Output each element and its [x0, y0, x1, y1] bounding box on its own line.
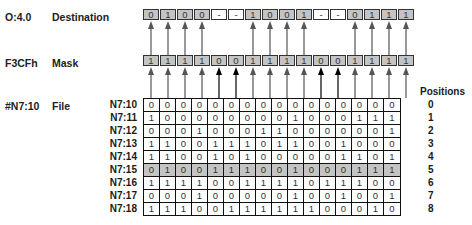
table-cell: 0 [176, 190, 192, 202]
table-cell: 0 [256, 151, 272, 163]
table-cell: 0 [320, 203, 336, 215]
table-cell: 0 [336, 203, 352, 215]
table-cell: 0 [352, 125, 368, 137]
table-cell: 0 [304, 125, 320, 137]
table-row: 1100111011001000 [144, 138, 400, 151]
table-cell: 1 [368, 164, 384, 176]
table-cell: 0 [224, 99, 240, 111]
table-row: 1100101000001101 [144, 151, 400, 164]
table-cell: 0 [192, 99, 208, 111]
table-cell: 1 [384, 151, 400, 163]
table-cell: 0 [384, 177, 400, 189]
row-position-label: 8 [428, 203, 434, 214]
table-cell: 0 [272, 151, 288, 163]
table-row: 0100111001000111 [144, 164, 400, 177]
table-cell: 0 [240, 99, 256, 111]
table-row: 0001000001001001 [144, 190, 400, 203]
table-cell: 1 [352, 151, 368, 163]
table-cell: 1 [256, 203, 272, 215]
table-cell: 1 [272, 138, 288, 150]
table-cell: 0 [304, 99, 320, 111]
table-cell: 0 [224, 190, 240, 202]
table-cell: 1 [176, 203, 192, 215]
table-cell: 0 [176, 125, 192, 137]
table-cell: 1 [352, 112, 368, 124]
table-cell: 1 [160, 164, 176, 176]
table-row: 0000000000000000 [144, 99, 400, 112]
table-cell: 0 [368, 151, 384, 163]
table-cell: 0 [352, 190, 368, 202]
table-cell: 0 [144, 164, 160, 176]
table-cell: 0 [224, 125, 240, 137]
table-cell: 1 [240, 203, 256, 215]
table-cell: 0 [304, 112, 320, 124]
table-cell: 1 [144, 151, 160, 163]
table-cell: 1 [368, 112, 384, 124]
table-row: 1000000001000111 [144, 112, 400, 125]
table-cell: 1 [288, 138, 304, 150]
table-cell: 0 [368, 99, 384, 111]
table-cell: 0 [176, 138, 192, 150]
table-cell: 1 [144, 112, 160, 124]
table-cell: 1 [272, 125, 288, 137]
row-position-label: 4 [428, 151, 434, 162]
table-cell: 0 [240, 190, 256, 202]
table-cell: 1 [240, 177, 256, 189]
table-cell: 0 [368, 138, 384, 150]
table-cell: 1 [384, 112, 400, 124]
table-cell: 1 [336, 138, 352, 150]
row-address-label: N7:13 [95, 138, 137, 149]
table-cell: 0 [144, 99, 160, 111]
table-cell: 1 [288, 164, 304, 176]
positions-header: Positions [420, 86, 465, 97]
table-cell: 0 [320, 164, 336, 176]
table-cell: 1 [208, 164, 224, 176]
table-cell: 1 [240, 138, 256, 150]
table-cell: 0 [192, 138, 208, 150]
table-cell: 0 [272, 190, 288, 202]
table-cell: 1 [304, 203, 320, 215]
table-cell: 1 [384, 125, 400, 137]
row-address-label: N7:15 [95, 164, 137, 175]
row-position-label: 7 [428, 190, 434, 201]
table-cell: 0 [256, 112, 272, 124]
table-cell: 0 [304, 151, 320, 163]
table-cell: 0 [288, 99, 304, 111]
row-position-label: 0 [428, 99, 434, 110]
table-cell: 0 [320, 151, 336, 163]
table-cell: 0 [352, 203, 368, 215]
table-cell: 0 [304, 190, 320, 202]
table-cell: 0 [176, 99, 192, 111]
row-address-label: N7:10 [95, 99, 137, 110]
table-cell: 0 [208, 125, 224, 137]
table-cell: 0 [272, 164, 288, 176]
table-cell: 1 [192, 125, 208, 137]
table-cell: 1 [224, 164, 240, 176]
table-cell: 1 [224, 203, 240, 215]
table-cell: 1 [272, 203, 288, 215]
table-cell: 0 [320, 138, 336, 150]
table-cell: 1 [208, 151, 224, 163]
table-cell: 0 [240, 125, 256, 137]
table-cell: 0 [352, 99, 368, 111]
table-cell: 0 [208, 112, 224, 124]
table-cell: 1 [272, 177, 288, 189]
table-cell: 0 [368, 177, 384, 189]
table-cell: 0 [320, 125, 336, 137]
table-cell: 1 [144, 138, 160, 150]
row-address-label: N7:14 [95, 151, 137, 162]
row-address-label: N7:18 [95, 203, 137, 214]
row-position-label: 2 [428, 125, 434, 136]
table-cell: 0 [176, 112, 192, 124]
table-cell: 0 [224, 112, 240, 124]
table-cell: 1 [384, 190, 400, 202]
row-position-label: 5 [428, 164, 434, 175]
table-cell: 0 [176, 151, 192, 163]
table-cell: 0 [304, 164, 320, 176]
table-cell: 1 [336, 177, 352, 189]
table-cell: 0 [320, 99, 336, 111]
table-cell: 0 [320, 190, 336, 202]
table-cell: 0 [272, 112, 288, 124]
table-cell: 0 [336, 164, 352, 176]
table-cell: 0 [352, 138, 368, 150]
